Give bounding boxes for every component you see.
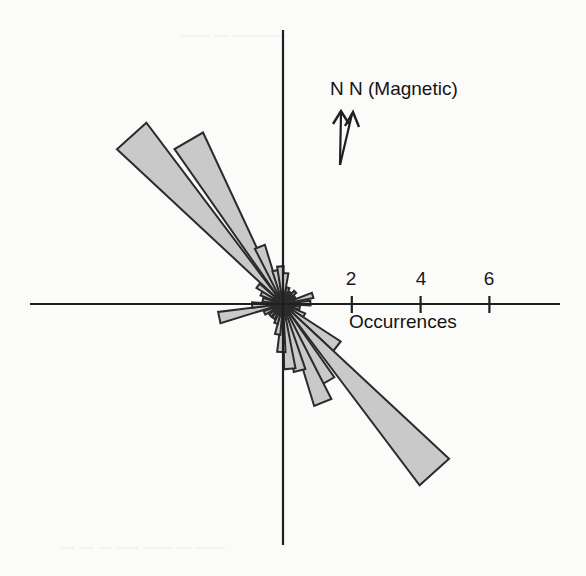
radial-axis-title: Occurrences	[349, 311, 457, 333]
rose-diagram-figure: ~~~~ ~~ ~~~~~~~ ~~ ~~ ~~ ~~~ ~~~~ ~~ ~~~…	[0, 0, 586, 576]
rose-diagram-plot	[0, 0, 586, 576]
radial-tick-label-6: 6	[484, 268, 495, 290]
north-marker-label: N N (Magnetic)	[330, 78, 458, 100]
radial-tick-label-2: 2	[346, 268, 357, 290]
north-arrow-group	[333, 111, 359, 165]
radial-tick-label-4: 4	[416, 268, 427, 290]
plot-axes	[30, 30, 560, 545]
